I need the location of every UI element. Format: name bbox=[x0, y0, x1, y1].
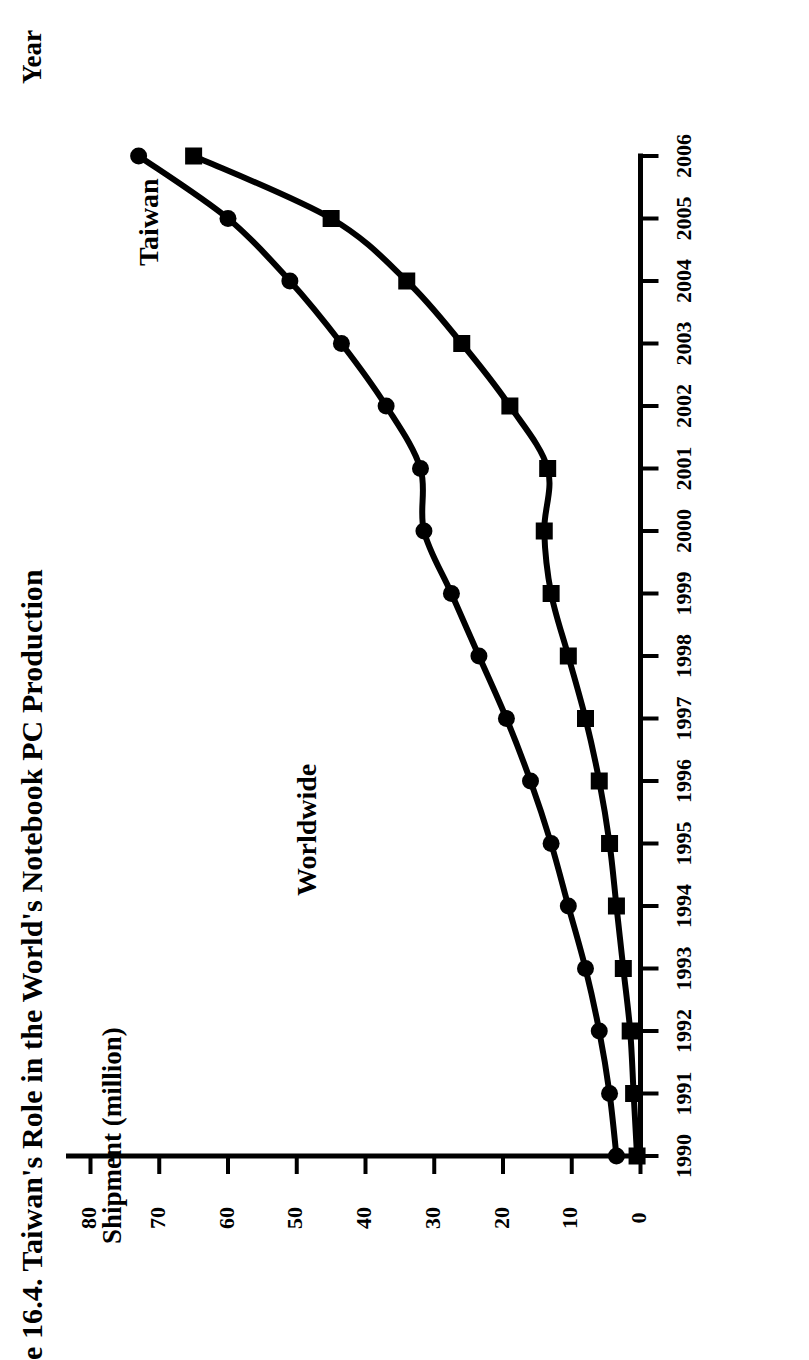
series-taiwan bbox=[185, 148, 645, 1165]
series-label-worldwide: Worldwide bbox=[290, 764, 322, 896]
y-tick-label: 50 bbox=[281, 1190, 307, 1246]
y-tick-label: 60 bbox=[213, 1190, 239, 1246]
y-tick-label: 20 bbox=[488, 1190, 514, 1246]
y-axis-ticks bbox=[90, 1156, 640, 1174]
y-tick-label: 10 bbox=[556, 1190, 582, 1246]
series-label-taiwan: Taiwan bbox=[132, 178, 164, 266]
axis-lines bbox=[68, 156, 640, 1156]
series-worldwide bbox=[130, 148, 625, 1165]
y-tick-label: 40 bbox=[350, 1190, 376, 1246]
x-tick-label: 2006 bbox=[670, 116, 696, 196]
y-tick-label: 70 bbox=[144, 1190, 170, 1246]
y-tick-label: 80 bbox=[75, 1190, 101, 1246]
y-tick-label: 30 bbox=[419, 1190, 445, 1246]
y-tick-label: 0 bbox=[625, 1190, 651, 1246]
